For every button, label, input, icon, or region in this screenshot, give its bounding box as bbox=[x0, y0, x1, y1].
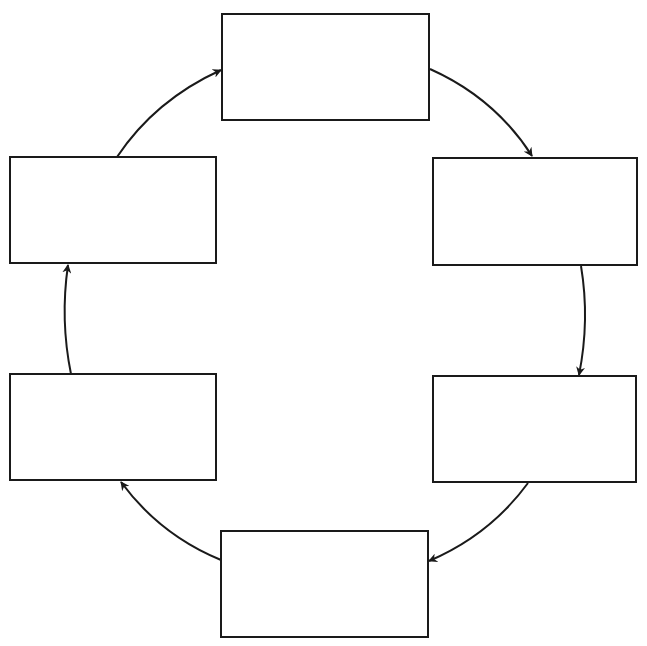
node-left-top bbox=[9, 156, 217, 264]
arrow-right-top-to-right-bottom bbox=[579, 266, 585, 375]
arrow-top-to-right-top bbox=[430, 69, 532, 156]
node-right-bottom bbox=[432, 375, 637, 483]
arrow-left-bottom-to-left-top bbox=[65, 265, 71, 374]
node-top bbox=[221, 13, 430, 121]
node-right-top bbox=[432, 157, 638, 266]
arrow-right-bottom-to-bottom bbox=[429, 483, 528, 561]
arrow-left-top-to-top bbox=[117, 70, 221, 157]
node-left-bottom bbox=[9, 373, 217, 481]
cycle-diagram bbox=[0, 0, 647, 646]
node-bottom bbox=[220, 530, 429, 638]
arrow-bottom-to-left-bottom bbox=[121, 482, 221, 560]
